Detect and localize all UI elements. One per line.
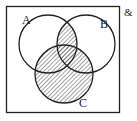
universal-set-symbol: & <box>124 6 133 18</box>
set-b-label: B <box>100 17 108 31</box>
venn-diagram: A B C & <box>0 0 137 121</box>
set-a-label: A <box>22 13 31 27</box>
set-c-label: C <box>79 96 87 110</box>
